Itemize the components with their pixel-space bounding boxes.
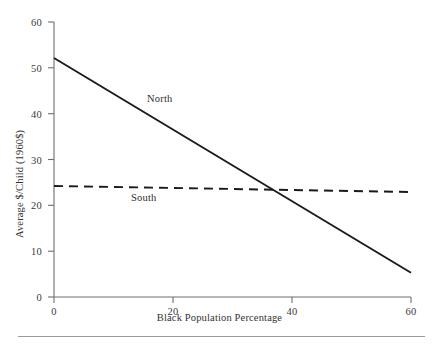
series-line-north (54, 58, 411, 273)
series-line-south (54, 186, 411, 192)
chart-figure: 60 50 40 30 20 10 0 0 20 40 60 Black Pop… (0, 0, 439, 348)
y-tick-label-60: 60 (10, 17, 42, 28)
series-label-north: North (147, 93, 173, 104)
y-axis-title: Average $/Child (1960$) (14, 130, 25, 238)
y-tick-label-0: 0 (10, 292, 42, 303)
chart-plot-area (0, 0, 439, 348)
footer-rule (18, 336, 425, 337)
y-tick-label-50: 50 (10, 62, 42, 73)
y-tick-label-40: 40 (10, 108, 42, 119)
y-tick-label-10: 10 (10, 246, 42, 257)
x-axis-ticks (54, 297, 411, 303)
series-label-south: South (131, 192, 157, 203)
x-axis-title: Black Population Percentage (0, 312, 439, 323)
y-axis-ticks (48, 22, 54, 297)
